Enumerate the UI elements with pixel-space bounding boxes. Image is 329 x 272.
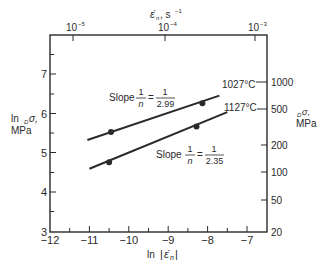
svg-text:1: 1: [162, 87, 167, 97]
top-axis-ticks: [73, 35, 255, 41]
series-1027c-point: [199, 100, 205, 106]
svg-text:10: 10: [66, 22, 78, 33]
svg-text:σ,: σ,: [302, 107, 310, 117]
svg-text:2.99: 2.99: [157, 99, 175, 109]
svg-text:−4: −4: [170, 21, 178, 27]
svg-text:, s: , s: [160, 9, 171, 20]
svg-text:Slope: Slope: [109, 92, 135, 103]
svg-text:50: 50: [271, 195, 283, 206]
top-tick-labels: 10 −5 10 −4 10 −3: [66, 21, 268, 33]
svg-text:|: |: [175, 248, 178, 260]
svg-text:ε̇: ε̇: [150, 8, 156, 20]
right-axis-label: D σ, MPa: [296, 107, 317, 129]
top-axis-label: ε̇ n , s −1: [150, 8, 183, 21]
x-axis-ticks: [70, 226, 247, 232]
svg-text:σ,: σ,: [29, 113, 38, 124]
svg-text:ln: ln: [11, 113, 19, 124]
svg-text:−1: −1: [175, 8, 183, 14]
svg-text:−5: −5: [78, 21, 86, 27]
svg-text:100: 100: [271, 167, 288, 178]
svg-text:1000: 1000: [271, 77, 294, 88]
y-axis-label: ln D σ, MPa: [11, 113, 38, 136]
series-1127c-point: [106, 159, 112, 165]
svg-text:−8: −8: [201, 234, 214, 246]
svg-text:n: n: [138, 99, 143, 109]
svg-text:10: 10: [158, 22, 170, 33]
svg-text:|: |: [160, 248, 163, 260]
caption-fragment: · · · · · · · · · · · · · · · · · · · · …: [35, 264, 295, 272]
series-labels: 1027°C 1127°C: [222, 79, 261, 113]
svg-text:−11: −11: [80, 234, 98, 246]
right-axis-ticks: [261, 82, 267, 200]
svg-text:=: =: [148, 92, 154, 103]
svg-text:−7: −7: [241, 234, 254, 246]
svg-text:1: 1: [211, 144, 216, 154]
svg-text:n: n: [187, 156, 192, 166]
svg-text:MPa: MPa: [11, 125, 32, 136]
svg-text:=: =: [197, 149, 203, 160]
x-tick-labels: −12 −11 −10 −9 −8 −7: [41, 234, 254, 246]
svg-text:ε̇: ε̇: [164, 248, 170, 260]
svg-text:6: 6: [41, 108, 47, 120]
svg-text:Slope: Slope: [156, 149, 182, 160]
svg-text:−10: −10: [119, 234, 138, 246]
series-1027c-label: 1027°C: [222, 79, 255, 90]
svg-text:10: 10: [248, 22, 260, 33]
series-1027c-point: [108, 129, 114, 135]
chart-canvas: −12 −11 −10 −9 −8 −7 ln | ε̇ n | 3 4 5 6…: [0, 0, 329, 272]
right-tick-labels: 1000 500 200 100 50 20: [271, 77, 294, 238]
svg-text:1: 1: [187, 144, 192, 154]
series-1127c-point: [194, 123, 200, 129]
svg-text:500: 500: [271, 104, 288, 115]
svg-text:4: 4: [41, 186, 47, 198]
svg-text:5: 5: [41, 147, 47, 159]
svg-text:MPa: MPa: [296, 118, 317, 129]
y-tick-labels: 3 4 5 6 7: [41, 68, 47, 238]
plot-frame: [50, 35, 267, 232]
svg-text:ln: ln: [147, 249, 155, 260]
y-axis-ticks: [50, 55, 56, 212]
svg-text:−3: −3: [260, 21, 268, 27]
slope-annotation-1027c: Slope 1 n = 1 2.99: [109, 87, 175, 109]
svg-text:n: n: [170, 254, 174, 261]
svg-text:20: 20: [271, 227, 283, 238]
slope-annotation-1127c: Slope 1 n = 1 2.35: [156, 144, 224, 166]
svg-text:200: 200: [271, 140, 288, 151]
svg-text:1: 1: [138, 87, 143, 97]
svg-text:−9: −9: [162, 234, 175, 246]
svg-text:3: 3: [41, 226, 47, 238]
svg-text:7: 7: [41, 68, 47, 80]
series-1127c-label: 1127°C: [224, 102, 257, 113]
svg-text:2.35: 2.35: [206, 156, 224, 166]
x-axis-label: ln | ε̇ n |: [147, 248, 178, 261]
